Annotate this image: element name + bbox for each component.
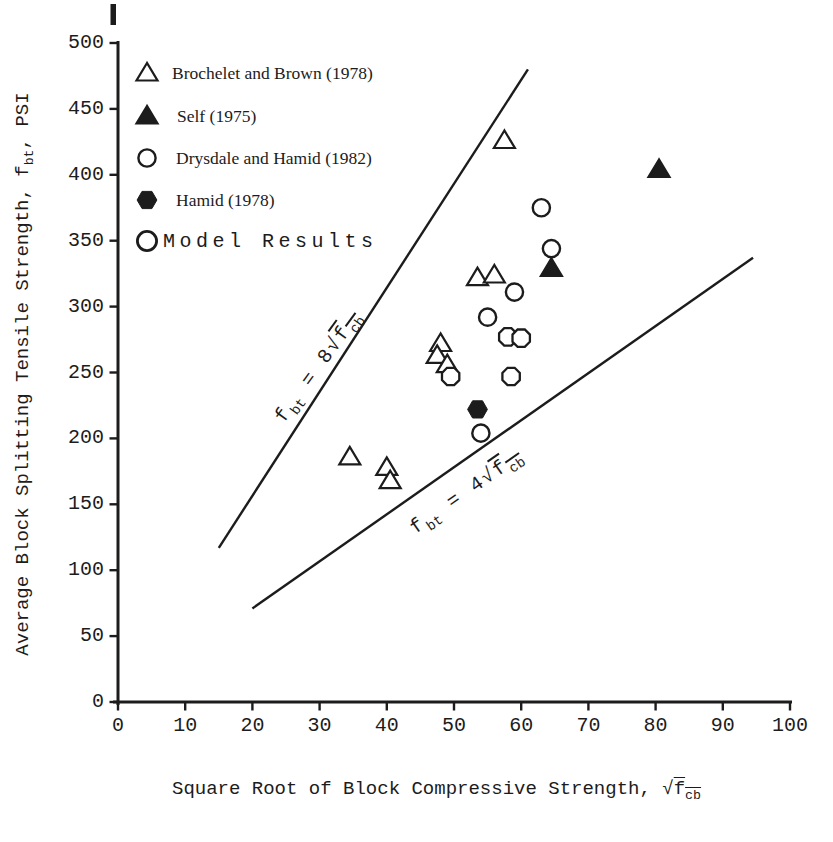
y-tick-label: 150 xyxy=(56,491,104,517)
y-tick-label: 350 xyxy=(56,228,104,254)
legend-label-drysdale-hamid: Drysdale and Hamid (1982) xyxy=(176,147,372,169)
x-tick-label: 0 xyxy=(91,713,145,739)
legend-label-self: Self (1975) xyxy=(177,105,256,127)
x-tick-label: 80 xyxy=(629,713,683,739)
y-tick-label: 400 xyxy=(56,162,104,188)
x-tick-label: 30 xyxy=(293,713,347,739)
x-tick-label: 20 xyxy=(225,713,279,739)
legend-label-hamid: Hamid (1978) xyxy=(176,189,275,211)
y-tick-label: 500 xyxy=(56,30,104,56)
x-tick-label: 90 xyxy=(696,713,750,739)
y-tick-label: 300 xyxy=(56,294,104,320)
x-tick-label: 50 xyxy=(427,713,481,739)
y-tick-label: 0 xyxy=(56,689,104,715)
x-tick-label: 40 xyxy=(360,713,414,739)
y-tick-label: 100 xyxy=(56,557,104,583)
y-tick-label: 450 xyxy=(56,96,104,122)
y-axis-title: Average Block Splitting Tensile Strength… xyxy=(10,34,38,714)
x-tick-label: 10 xyxy=(158,713,212,739)
ref-line-8-label: fbt = 8√fcb xyxy=(270,307,366,427)
x-tick-label: 100 xyxy=(763,713,817,739)
y-tick-label: 200 xyxy=(56,425,104,451)
x-axis-title: Square Root of Block Compressive Strengt… xyxy=(172,776,701,804)
legend-label-model-results: Model Results xyxy=(163,230,378,254)
ref-line-4-label: fbt = 4√fcb xyxy=(405,445,526,539)
x-tick-label: 60 xyxy=(494,713,548,739)
x-tick-label: 70 xyxy=(561,713,615,739)
scatter-figure: Brochelet and Brown (1978) Self (1975) D… xyxy=(0,0,833,842)
y-tick-label: 50 xyxy=(56,623,104,649)
legend-label-brochelet-brown: Brochelet and Brown (1978) xyxy=(172,62,373,84)
y-tick-label: 250 xyxy=(56,360,104,386)
plot-text-layer: Brochelet and Brown (1978) Self (1975) D… xyxy=(0,0,833,842)
